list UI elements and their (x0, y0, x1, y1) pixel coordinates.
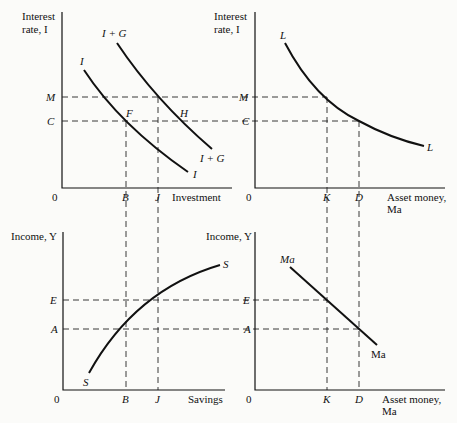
curve-S-label-start: S (83, 376, 89, 388)
tick-J: J (155, 393, 161, 405)
tick-A: A (50, 323, 58, 335)
curve-S (89, 265, 220, 373)
panel-savings: Income, Y 0 Savings E A B J S S (11, 230, 359, 405)
tick-C: C (47, 115, 55, 127)
x-axis-label-line2: Ma (387, 203, 402, 215)
panel-asset-money-income: Income, Y 0 Asset money, Ma E A K D Ma M… (206, 230, 445, 417)
y-axis-label: Income, Y (206, 230, 252, 242)
curve-IG-label-start: I + G (101, 27, 127, 39)
curve-L-label-start: L (279, 29, 286, 41)
curve-I-label-end: I (192, 168, 198, 180)
point-H: H (179, 107, 189, 119)
x-axis-label-line1: Asset money, (382, 393, 441, 405)
tick-E: E (242, 294, 250, 306)
origin-label: 0 (54, 393, 60, 405)
y-axis-label: Income, Y (11, 230, 57, 242)
x-axis-label: Savings (188, 393, 223, 405)
tick-K: K (322, 191, 331, 203)
x-axis-label-line1: Asset money, (387, 191, 446, 203)
tick-A: A (243, 323, 251, 335)
curve-I-plus-G (117, 43, 212, 149)
tick-C: C (242, 115, 250, 127)
tick-B: B (122, 393, 129, 405)
curve-L (285, 43, 424, 146)
tick-M: M (45, 91, 56, 103)
y-axis-label-line2: rate, I (214, 23, 240, 35)
axes (63, 232, 225, 390)
tick-E: E (49, 294, 57, 306)
tick-K: K (322, 393, 331, 405)
tick-J: J (155, 191, 161, 203)
x-axis-label: Investment (172, 191, 221, 203)
origin-label: 0 (246, 393, 252, 405)
tick-B: B (122, 191, 129, 203)
origin-label: 0 (52, 191, 58, 203)
curve-Ma (290, 267, 377, 345)
tick-M: M (238, 91, 249, 103)
curve-I-label-start: I (79, 55, 85, 67)
y-axis-label-line1: Interest (214, 10, 247, 22)
point-F: F (125, 107, 133, 119)
curve-Ma-label-start: Ma (279, 253, 295, 265)
y-axis-label-line2: rate, I (22, 23, 48, 35)
curve-L-label-end: L (426, 141, 433, 153)
tick-D: D (354, 191, 363, 203)
curve-S-label-end: S (223, 258, 229, 270)
panel-investment: Interest rate, I 0 Investment M C B J I … (22, 10, 359, 390)
origin-label: 0 (246, 191, 252, 203)
y-axis-label-line1: Interest (22, 10, 55, 22)
tick-D: D (354, 393, 363, 405)
x-axis-label-line2: Ma (382, 405, 397, 417)
curve-Ma-label-end: Ma (371, 348, 386, 360)
curve-IG-label-end: I + G (199, 152, 225, 164)
four-quadrant-diagram: Interest rate, I 0 Investment M C B J I … (0, 0, 457, 423)
